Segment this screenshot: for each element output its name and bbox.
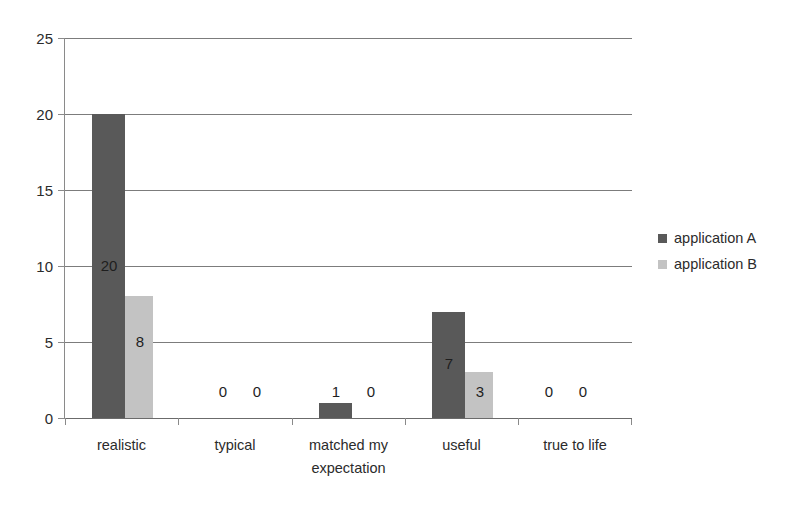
legend-label-application-b: application B xyxy=(674,256,757,272)
bar-matched-my-expectation-application-a xyxy=(319,403,352,418)
value-label-useful-application-b: 3 xyxy=(463,384,497,399)
y-axis-label-5: 5 xyxy=(3,335,53,350)
y-tick-0 xyxy=(58,418,65,419)
value-label-realistic-application-b: 8 xyxy=(123,334,157,349)
x-tick-0 xyxy=(65,418,66,425)
x-tick-3 xyxy=(405,418,406,425)
x-tick-2 xyxy=(292,418,293,425)
x-axis-category-realistic: realistic xyxy=(65,436,178,455)
y-tick-10 xyxy=(58,266,65,267)
y-tick-20 xyxy=(58,114,65,115)
legend-swatch-icon-application-a xyxy=(658,234,667,243)
x-tick-4 xyxy=(518,418,519,425)
x-axis-category-typical: typical xyxy=(178,436,292,455)
y-axis-label-0: 0 xyxy=(3,411,53,426)
legend: application A application B xyxy=(658,225,793,277)
y-axis-label-10: 10 xyxy=(3,259,53,274)
value-label-matched-my-expectation-application-a: 1 xyxy=(319,384,353,399)
legend-item-application-a[interactable]: application A xyxy=(658,225,793,251)
value-label-true-to-life-application-b: 0 xyxy=(566,384,600,399)
y-axis-label-20: 20 xyxy=(3,107,53,122)
value-label-typical-application-a: 0 xyxy=(206,384,240,399)
bar-chart: 25 20 15 10 5 0 20 8 0 0 1 0 7 xyxy=(0,0,800,509)
plot-area xyxy=(65,38,632,418)
x-axis-end-cap xyxy=(631,418,632,425)
gridline-0-baseline xyxy=(65,418,632,419)
y-axis-label-25: 25 xyxy=(3,31,53,46)
value-label-matched-my-expectation-application-b: 0 xyxy=(354,384,388,399)
gridline-10 xyxy=(65,266,632,267)
y-axis-label-15: 15 xyxy=(3,183,53,198)
legend-swatch-icon-application-b xyxy=(658,260,667,269)
x-axis-category-true-to-life: true to life xyxy=(518,436,632,455)
y-tick-25 xyxy=(58,38,65,39)
legend-item-application-b[interactable]: application B xyxy=(658,251,793,277)
y-tick-5 xyxy=(58,342,65,343)
legend-label-application-a: application A xyxy=(674,230,756,246)
value-label-realistic-application-a: 20 xyxy=(92,258,126,273)
x-axis-category-useful: useful xyxy=(405,436,518,455)
x-axis-category-matched-my-expectation-line2: expectation xyxy=(292,459,405,478)
x-axis-category-matched-my-expectation-line1: matched my xyxy=(292,436,405,455)
value-label-typical-application-b: 0 xyxy=(240,384,274,399)
x-tick-1 xyxy=(178,418,179,425)
value-label-useful-application-a: 7 xyxy=(432,356,466,371)
y-tick-15 xyxy=(58,190,65,191)
bar-realistic-application-b xyxy=(125,296,153,418)
value-label-true-to-life-application-a: 0 xyxy=(532,384,566,399)
gridline-15 xyxy=(65,190,632,191)
gridline-25 xyxy=(65,38,632,39)
gridline-20 xyxy=(65,114,632,115)
